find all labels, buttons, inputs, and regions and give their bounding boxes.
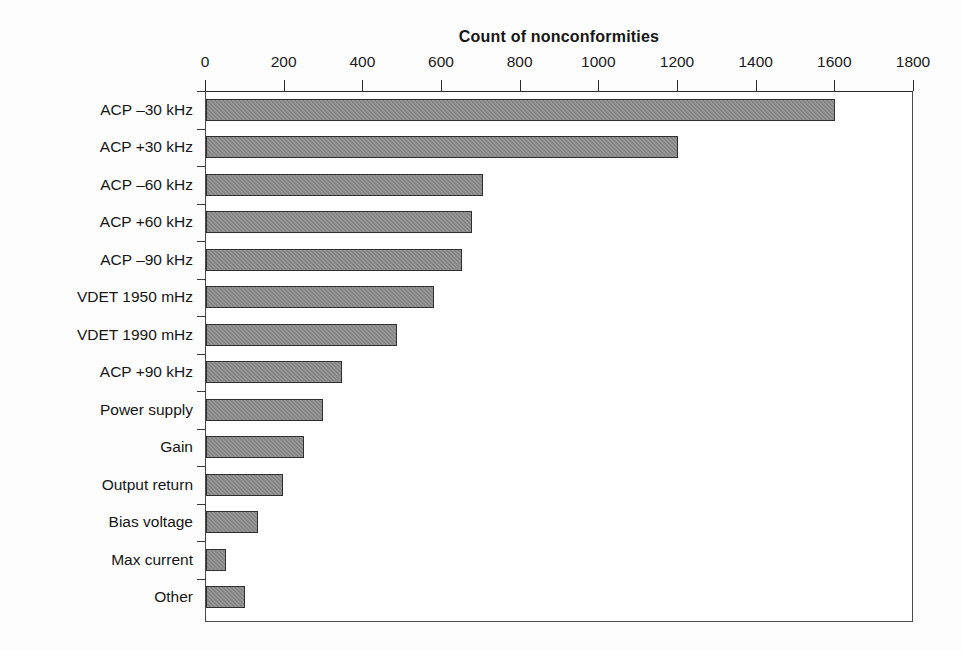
y-tick-mark (197, 466, 206, 467)
category-label: ACP –30 kHz (100, 101, 193, 119)
x-tick-mark-800 (520, 80, 521, 91)
y-tick-mark (197, 204, 206, 205)
bar (206, 361, 342, 383)
x-tick-label-1000: 1000 (581, 53, 615, 71)
y-tick-mark (197, 91, 206, 92)
bar-row: Max current (0, 541, 962, 579)
bar (206, 511, 258, 533)
bar-row: ACP +30 kHz (0, 129, 962, 167)
bar-row: Other (0, 579, 962, 617)
category-label: VDET 1990 mHz (77, 326, 193, 344)
x-tick-label-1800: 1800 (896, 53, 930, 71)
category-label: ACP +60 kHz (100, 213, 193, 231)
x-tick-label-1200: 1200 (660, 53, 694, 71)
y-tick-mark (197, 279, 206, 280)
y-tick-mark (197, 429, 206, 430)
x-tick-mark-1000 (598, 80, 599, 91)
bar-row: VDET 1950 mHz (0, 279, 962, 317)
x-tick-mark-1800 (913, 80, 914, 91)
y-tick-mark (197, 166, 206, 167)
x-tick-label-200: 200 (271, 53, 297, 71)
category-label: ACP +90 kHz (100, 363, 193, 381)
y-tick-mark (197, 129, 206, 130)
bar (206, 174, 483, 196)
x-tick-label-0: 0 (201, 53, 210, 71)
bar (206, 474, 283, 496)
bar-row: Power supply (0, 391, 962, 429)
bar-row: ACP –90 kHz (0, 241, 962, 279)
bar-row: ACP –60 kHz (0, 166, 962, 204)
x-tick-mark-200 (284, 80, 285, 91)
x-tick-mark-1600 (834, 80, 835, 91)
bar-row: Bias voltage (0, 504, 962, 542)
bar (206, 249, 462, 271)
y-tick-mark (197, 579, 206, 580)
category-label: ACP +30 kHz (100, 138, 193, 156)
bar (206, 286, 434, 308)
bar-row: ACP –30 kHz (0, 91, 962, 129)
bar (206, 549, 226, 571)
category-label: ACP –60 kHz (100, 176, 193, 194)
bar (206, 436, 304, 458)
x-tick-mark-0 (205, 80, 206, 91)
category-label: ACP –90 kHz (100, 251, 193, 269)
x-tick-label-600: 600 (428, 53, 454, 71)
x-axis-tick-labels: 020040060080010001200140016001800 (0, 53, 962, 75)
bar-row: VDET 1990 mHz (0, 316, 962, 354)
category-label: Gain (160, 438, 193, 456)
bar (206, 136, 678, 158)
bar (206, 324, 397, 346)
category-label: Bias voltage (109, 513, 193, 531)
bar-row: ACP +60 kHz (0, 204, 962, 242)
y-tick-mark (197, 354, 206, 355)
category-label: Power supply (100, 401, 193, 419)
bar-row: ACP +90 kHz (0, 354, 962, 392)
y-tick-mark (197, 241, 206, 242)
bar-row: Output return (0, 466, 962, 504)
x-tick-mark-1400 (756, 80, 757, 91)
y-tick-mark (197, 504, 206, 505)
y-tick-mark (197, 316, 206, 317)
category-label: VDET 1950 mHz (77, 288, 193, 306)
x-tick-mark-1200 (677, 80, 678, 91)
bar (206, 586, 245, 608)
x-tick-label-1600: 1600 (817, 53, 851, 71)
x-tick-label-1400: 1400 (738, 53, 772, 71)
category-label: Other (154, 588, 193, 606)
bar (206, 99, 835, 121)
x-tick-mark-600 (441, 80, 442, 91)
category-label: Max current (111, 551, 193, 569)
x-tick-label-800: 800 (507, 53, 533, 71)
bar-row: Gain (0, 429, 962, 467)
y-tick-mark (197, 541, 206, 542)
chart-title: Count of nonconformities (205, 28, 913, 46)
bar (206, 211, 472, 233)
x-tick-mark-400 (362, 80, 363, 91)
bar (206, 399, 323, 421)
chart-page: Count of nonconformities 020040060080010… (0, 0, 962, 651)
y-tick-mark (197, 391, 206, 392)
category-label: Output return (102, 476, 193, 494)
x-tick-label-400: 400 (349, 53, 375, 71)
